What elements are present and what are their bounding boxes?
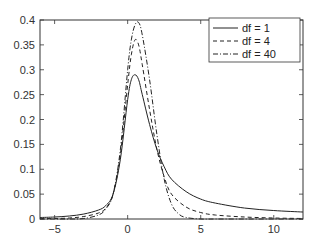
- legend-label: df = 1: [242, 22, 270, 34]
- y-tick-label: 0.4: [20, 14, 35, 26]
- line-chart: 00.050.10.150.20.250.30.350.4−50510 df =…: [0, 0, 315, 241]
- x-tick-label: 0: [125, 223, 131, 235]
- y-tick-label: 0.2: [20, 114, 35, 126]
- series-df1: [40, 75, 303, 218]
- y-tick-label: 0.3: [20, 64, 35, 76]
- y-tick-label: 0.05: [14, 188, 35, 200]
- legend-label: df = 4: [242, 35, 270, 47]
- y-tick-label: 0.15: [14, 138, 35, 150]
- x-tick-label: 5: [198, 223, 204, 235]
- legend-label: df = 40: [242, 48, 276, 60]
- x-tick-label: 10: [268, 223, 280, 235]
- y-tick-label: 0.25: [14, 89, 35, 101]
- y-tick-label: 0: [29, 213, 35, 225]
- y-tick-label: 0.1: [20, 163, 35, 175]
- x-tick-label: −5: [48, 223, 61, 235]
- series-df4: [40, 39, 303, 218]
- legend: df = 1 df = 4 df = 40: [209, 18, 300, 62]
- y-tick-label: 0.35: [14, 39, 35, 51]
